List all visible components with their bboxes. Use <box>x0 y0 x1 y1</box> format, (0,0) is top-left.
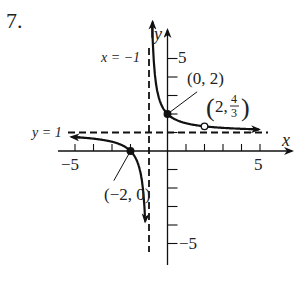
y-tick-label-pos5: 5 <box>178 48 187 67</box>
rational-function-graph: (0, 2)(−2, 0)(2,43)x = −1y = 1xy−555−5 <box>0 0 303 298</box>
axes <box>58 30 292 265</box>
hole-point <box>201 123 208 130</box>
y-tick-label-neg5: −5 <box>179 234 197 253</box>
left-branch-arrow-left <box>71 137 80 138</box>
labels: (0, 2)(−2, 0)(2,43)x = −1y = 1xy−555−5 <box>30 24 290 253</box>
label-point-0-2: (0, 2) <box>187 69 224 88</box>
fraction-den: 3 <box>231 106 237 120</box>
function-curve <box>71 22 259 222</box>
fraction-num: 4 <box>231 92 237 106</box>
label-vertical-asymptote: x = −1 <box>100 50 140 65</box>
y-axis-label: y <box>152 24 162 44</box>
label-horizontal-asymptote: y = 1 <box>30 125 62 140</box>
paren-open: ( <box>206 93 215 122</box>
label-point-neg2-0: (−2, 0) <box>104 185 150 204</box>
left-branch <box>73 137 145 217</box>
paren-close: ) <box>241 93 250 122</box>
x-axis-label: x <box>281 130 290 150</box>
label-point-2: 2, <box>215 97 228 116</box>
x-tick-label-neg5: −5 <box>61 155 79 174</box>
leader-line-neg2-0 <box>114 151 131 181</box>
x-tick-label-pos5: 5 <box>254 155 263 174</box>
